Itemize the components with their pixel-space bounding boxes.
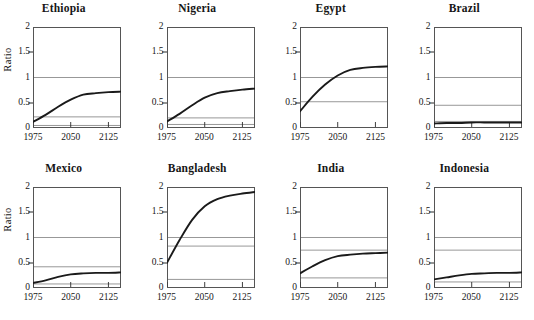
x-tick-label: 1975 [291,293,310,303]
x-tick-label: 1975 [24,293,43,303]
x-tick-label: 2050 [328,133,347,143]
y-tick-label: 2 [159,22,164,32]
plot-svg [434,27,522,128]
panel-grid: EthiopiaRatio00.511.52197520502125Nigeri… [0,0,534,320]
panel-title: Mexico [0,162,134,174]
plot-area: 00.511.52197520502125 [300,27,388,128]
y-tick-mark [295,212,300,213]
x-tick-label: 2050 [328,293,347,303]
chart-panel-brazil: Brazil00.511.52197520502125 [401,0,534,160]
x-tick-label: 2125 [366,133,385,143]
x-tick-label: 2125 [499,133,518,143]
y-tick-mark [28,212,33,213]
y-tick-mark [429,262,434,263]
panel-title: Egypt [267,2,401,14]
x-tick-label: 2050 [462,293,481,303]
x-tick-label: 2050 [195,133,214,143]
y-tick-mark [28,102,33,103]
y-tick-label: 1 [25,73,30,83]
plot-area: 00.511.52197520502125 [33,187,121,288]
chart-panel-nigeria: Nigeria00.511.52197520502125 [134,0,268,160]
y-tick-mark [162,52,167,53]
y-tick-mark [28,262,33,263]
y-tick-label: 2 [426,22,431,32]
y-tick-label: 1 [292,73,297,83]
x-tick-label: 1975 [291,133,310,143]
plot-area: 00.511.52197520502125 [434,27,522,128]
chart-panel-bangladesh: Bangladesh00.511.52197520502125 [134,160,268,320]
y-tick-label: 2 [25,182,30,192]
y-tick-label: 1 [426,73,431,83]
data-line [434,122,522,123]
y-tick-label: 2 [159,182,164,192]
y-tick-label: 2 [426,182,431,192]
plot-svg [300,187,388,288]
x-tick-label: 2125 [99,133,118,143]
y-tick-mark [429,212,434,213]
y-tick-label: 1 [25,233,30,243]
plot-area: 00.511.52197520502125 [167,27,255,128]
x-tick-label: 2125 [232,293,251,303]
y-tick-mark [162,212,167,213]
plot-svg [167,187,255,288]
y-tick-label: 1 [159,233,164,243]
y-tick-mark [162,102,167,103]
chart-panel-egypt: Egypt00.511.52197520502125 [267,0,401,160]
chart-panel-india: India00.511.52197520502125 [267,160,401,320]
panel-title: Brazil [401,2,534,14]
x-tick-label: 1975 [24,133,43,143]
x-tick-label: 2050 [61,133,80,143]
y-tick-label: 2 [25,22,30,32]
y-tick-label: 1 [292,233,297,243]
plot-svg [167,27,255,128]
plot-svg [33,27,121,128]
plot-area: 00.511.52197520502125 [300,187,388,288]
y-tick-label: 2 [292,22,297,32]
y-tick-mark [295,102,300,103]
y-tick-mark [28,52,33,53]
x-tick-label: 2050 [195,293,214,303]
x-tick-label: 2050 [462,133,481,143]
y-tick-mark [429,52,434,53]
chart-panel-indonesia: Indonesia00.511.52197520502125 [401,160,534,320]
x-tick-label: 2125 [499,293,518,303]
x-tick-label: 1975 [424,133,443,143]
y-tick-mark [295,262,300,263]
y-tick-label: 1 [159,73,164,83]
plot-area: 00.511.52197520502125 [434,187,522,288]
chart-panel-mexico: MexicoRatio00.511.52197520502125 [0,160,134,320]
x-tick-label: 1975 [157,293,176,303]
x-tick-label: 1975 [424,293,443,303]
y-tick-mark [162,262,167,263]
panel-title: Indonesia [401,162,534,174]
panel-title: Bangladesh [134,162,268,174]
x-tick-label: 2050 [61,293,80,303]
x-tick-label: 2125 [366,293,385,303]
y-tick-label: 2 [292,182,297,192]
x-tick-label: 2125 [232,133,251,143]
panel-title: India [267,162,401,174]
panel-title: Nigeria [134,2,268,14]
plot-svg [300,27,388,128]
plot-svg [434,187,522,288]
y-axis-label: Ratio [2,200,13,240]
x-tick-label: 2125 [99,293,118,303]
x-tick-label: 1975 [157,133,176,143]
plot-area: 00.511.52197520502125 [33,27,121,128]
panel-title: Ethiopia [0,2,134,14]
y-axis-label: Ratio [2,40,13,80]
y-tick-label: 1 [426,233,431,243]
y-tick-mark [295,52,300,53]
plot-svg [33,187,121,288]
chart-panel-ethiopia: EthiopiaRatio00.511.52197520502125 [0,0,134,160]
plot-area: 00.511.52197520502125 [167,187,255,288]
y-tick-mark [429,102,434,103]
